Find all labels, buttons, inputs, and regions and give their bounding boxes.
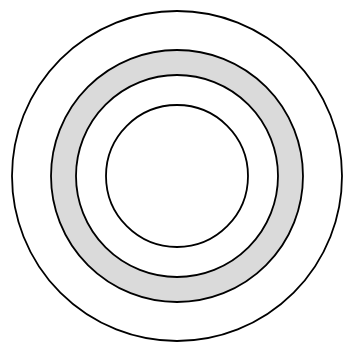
figure-root [0, 0, 354, 352]
inner-circle [106, 105, 248, 247]
concentric-circles-diagram [0, 0, 354, 352]
